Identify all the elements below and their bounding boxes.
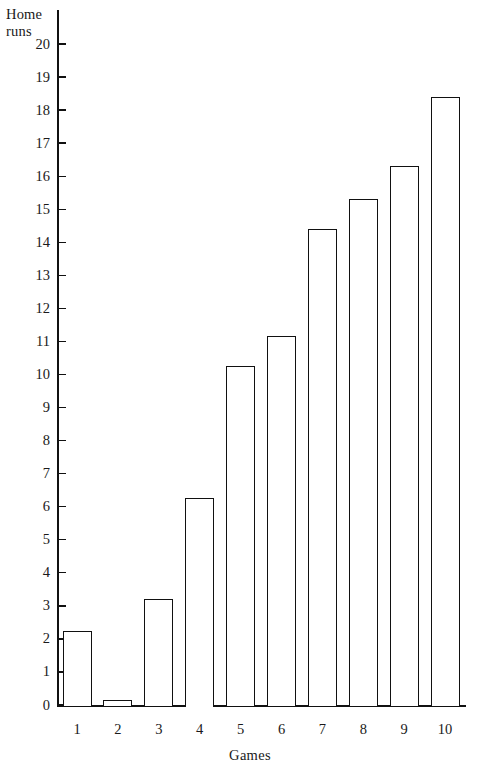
- y-axis-tick-label: 16: [20, 169, 50, 184]
- bar-chart-figure: Home runs 012345678910111213141516171819…: [0, 0, 500, 773]
- x-axis-tick-label: 10: [425, 722, 465, 737]
- y-axis-tick-mark: [57, 440, 66, 441]
- y-axis-tick-label: 11: [20, 334, 50, 349]
- bar: [103, 700, 132, 706]
- y-axis-tick-mark: [57, 109, 66, 110]
- y-axis-tick-mark: [57, 142, 66, 143]
- y-axis-tick-mark: [57, 76, 66, 77]
- y-axis-tick-label: 18: [20, 103, 50, 118]
- y-axis-tick-mark: [57, 473, 66, 474]
- bar: [390, 166, 419, 706]
- y-axis-tick-mark: [57, 209, 66, 210]
- y-axis-tick-mark: [57, 341, 66, 342]
- y-axis-tick-label: 3: [20, 598, 50, 613]
- y-axis-tick-mark: [57, 605, 66, 606]
- bar: [308, 229, 337, 706]
- y-axis-tick-label: 14: [20, 235, 50, 250]
- y-axis-tick-label: 4: [20, 565, 50, 580]
- y-axis-tick-label: 5: [20, 532, 50, 547]
- bar: [226, 366, 255, 706]
- x-axis-tick-label: 5: [221, 722, 261, 737]
- y-axis-tick-label: 13: [20, 268, 50, 283]
- x-axis-tick-label: 7: [302, 722, 342, 737]
- y-axis-tick-mark: [57, 572, 66, 573]
- y-axis-tick-label: 12: [20, 301, 50, 316]
- y-axis-tick-mark: [57, 308, 66, 309]
- y-axis-tick-label: 7: [20, 466, 50, 481]
- bar: [349, 199, 378, 706]
- y-axis-tick-label: 0: [20, 698, 50, 713]
- y-axis-tick-label: 15: [20, 202, 50, 217]
- y-axis-tick-label: 10: [20, 367, 50, 382]
- bar: [185, 498, 214, 706]
- y-axis-tick-label: 20: [20, 37, 50, 52]
- y-axis-tick-mark: [57, 176, 66, 177]
- y-axis-tick-mark: [57, 374, 66, 375]
- y-axis-tick-label: 2: [20, 631, 50, 646]
- x-axis-tick-label: 2: [98, 722, 138, 737]
- y-axis-tick-mark: [57, 407, 66, 408]
- y-axis-tick-mark: [57, 43, 66, 44]
- y-axis-tick-label: 1: [20, 664, 50, 679]
- x-axis-tick-label: 8: [343, 722, 383, 737]
- bar: [431, 97, 460, 707]
- y-axis-tick-mark: [57, 275, 66, 276]
- x-axis-tick-label: 3: [139, 722, 179, 737]
- y-axis-tick-mark: [57, 506, 66, 507]
- bar: [144, 599, 173, 706]
- y-axis-tick-mark: [57, 242, 66, 243]
- y-axis-tick-label: 6: [20, 499, 50, 514]
- bar: [267, 336, 296, 706]
- y-axis-title: Home runs: [6, 6, 62, 40]
- bar: [63, 631, 92, 707]
- y-axis-tick-label: 19: [20, 70, 50, 85]
- x-axis-title: Games: [0, 748, 500, 763]
- x-axis-tick-label: 9: [384, 722, 424, 737]
- x-axis-tick-label: 1: [57, 722, 97, 737]
- y-axis-tick-label: 17: [20, 136, 50, 151]
- x-axis-tick-label: 4: [180, 722, 220, 737]
- y-axis-tick-mark: [57, 539, 66, 540]
- y-axis-line: [57, 10, 59, 706]
- y-axis-tick-label: 8: [20, 433, 50, 448]
- x-axis-tick-label: 6: [262, 722, 302, 737]
- y-axis-tick-label: 9: [20, 400, 50, 415]
